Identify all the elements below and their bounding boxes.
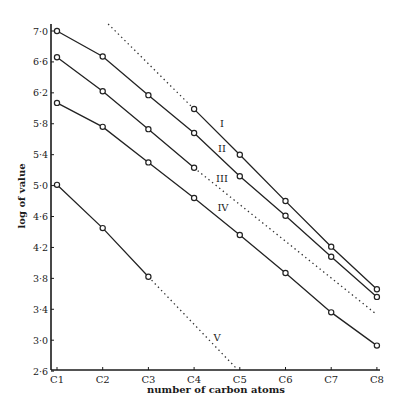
data-point-marker (100, 54, 105, 59)
x-tick-label: C1 (50, 374, 64, 385)
extrapolation-line (148, 277, 237, 370)
plot-area (54, 22, 379, 370)
y-tick-label: 4·6 (33, 211, 48, 222)
data-point-marker (283, 270, 288, 275)
y-tick-label: 3·8 (33, 273, 48, 284)
data-point-marker (237, 174, 242, 179)
data-point-marker (329, 244, 334, 249)
data-point-marker (329, 254, 334, 259)
data-point-marker (54, 55, 59, 60)
x-tick-label: C7 (324, 374, 338, 385)
y-tick-label: 5·4 (33, 149, 48, 160)
data-point-marker (374, 294, 379, 299)
series-label: I (220, 118, 224, 129)
data-point-marker (192, 106, 197, 111)
data-point-marker (283, 213, 288, 218)
y-tick-label: 6·2 (33, 87, 48, 98)
data-point-marker (192, 165, 197, 170)
data-point-marker (146, 93, 151, 98)
data-point-marker (100, 226, 105, 231)
data-point-marker (54, 182, 59, 187)
y-tick-label: 7·0 (33, 26, 48, 37)
series-label: IV (217, 202, 229, 213)
series-ii (54, 28, 379, 299)
data-point-marker (283, 198, 288, 203)
extrapolation-line (194, 168, 377, 315)
y-tick-label: 6·6 (33, 56, 48, 67)
data-point-marker (237, 232, 242, 237)
y-tick-label: 3·0 (33, 335, 48, 346)
data-point-marker (54, 100, 59, 105)
y-tick-label: 5·0 (33, 180, 48, 191)
x-tick-label: C8 (370, 374, 384, 385)
data-point-marker (329, 310, 334, 315)
x-axis-title: number of carbon atoms (147, 384, 285, 395)
data-point-marker (237, 152, 242, 157)
y-axis-title: log of value (16, 163, 27, 228)
data-point-marker (192, 130, 197, 135)
data-point-marker (100, 89, 105, 94)
data-point-marker (100, 124, 105, 129)
series-iv (54, 100, 379, 348)
chart: 7·06·66·25·85·45·04·64·23·83·43·02·6 C1C… (0, 0, 402, 420)
y-tick-label: 3·4 (33, 304, 48, 315)
series-line (57, 103, 377, 346)
y-tick-label: 5·8 (33, 118, 48, 129)
series-labels: IIIIIIIVV (212, 118, 229, 343)
data-point-marker (54, 28, 59, 33)
y-tick-label: 4·2 (33, 242, 48, 253)
data-point-marker (146, 274, 151, 279)
series-label: III (216, 173, 228, 184)
x-tick-label: C2 (96, 374, 110, 385)
y-tick-label: 2·6 (33, 366, 48, 377)
data-point-marker (374, 343, 379, 348)
data-point-marker (146, 127, 151, 132)
series-label: II (218, 143, 226, 154)
series-label: V (212, 332, 221, 343)
data-point-marker (146, 160, 151, 165)
data-point-marker (192, 195, 197, 200)
series-i (106, 22, 380, 292)
data-point-marker (374, 287, 379, 292)
series-iii (54, 55, 377, 315)
series-line (57, 57, 194, 168)
